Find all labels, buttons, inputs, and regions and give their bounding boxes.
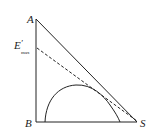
edge-AS: [36, 19, 137, 122]
vertex-label-b: B: [25, 117, 32, 129]
emax-label-subscript: max: [21, 50, 30, 55]
dashed-line-emax-s: [37, 48, 137, 121]
vertex-label-s: S: [140, 117, 146, 129]
ternary-diagram: A B S E′ max: [0, 0, 155, 139]
emax-label-prime: ′: [21, 38, 24, 48]
vertex-label-a: A: [26, 13, 34, 25]
solubility-curve: [45, 85, 120, 122]
